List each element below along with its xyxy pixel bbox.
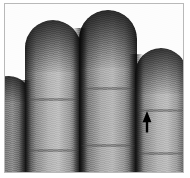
- photo-frame: [4, 3, 184, 173]
- screenshot-root: [0, 0, 190, 178]
- arrow-up-icon: [140, 110, 154, 134]
- finger-index: [25, 20, 81, 172]
- hand-photograph: [5, 4, 183, 172]
- background-top-left: [5, 4, 27, 78]
- finger-middle: [79, 10, 137, 172]
